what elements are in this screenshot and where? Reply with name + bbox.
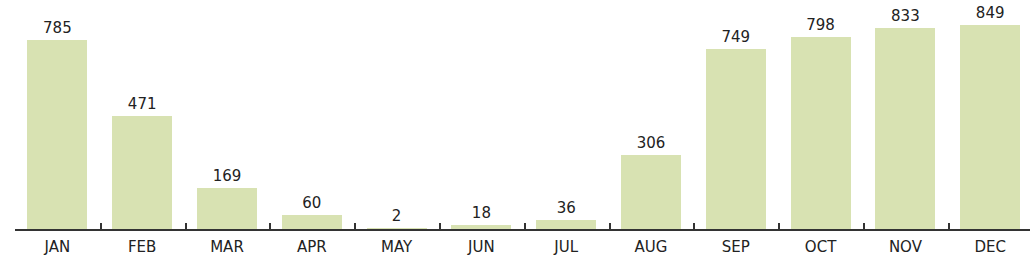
x-axis-tick — [100, 223, 102, 230]
bar-aug — [621, 155, 681, 229]
bar-jun — [451, 225, 511, 229]
bar-mar — [197, 188, 257, 229]
bar-feb — [112, 116, 172, 229]
x-axis-tick — [693, 223, 695, 230]
category-label-aug: AUG — [611, 238, 691, 256]
x-axis-tick — [609, 223, 611, 230]
value-label-dec: 849 — [950, 4, 1030, 22]
bar-jan — [27, 40, 87, 229]
x-axis-line — [15, 229, 1030, 231]
x-axis-tick — [778, 223, 780, 230]
category-label-jul: JUL — [526, 238, 606, 256]
monthly-bar-chart: 785JAN471FEB169MAR60APR2MAY18JUN36JUL306… — [0, 0, 1033, 270]
category-label-feb: FEB — [102, 238, 182, 256]
category-label-mar: MAR — [187, 238, 267, 256]
bar-may — [367, 228, 427, 229]
x-axis-tick — [863, 223, 865, 230]
x-axis-tick — [269, 223, 271, 230]
value-label-jun: 18 — [441, 204, 521, 222]
value-label-nov: 833 — [865, 7, 945, 25]
value-label-apr: 60 — [272, 194, 352, 212]
value-label-oct: 798 — [781, 16, 861, 34]
x-axis-tick — [185, 223, 187, 230]
category-label-sep: SEP — [696, 238, 776, 256]
value-label-jan: 785 — [17, 19, 97, 37]
category-label-jan: JAN — [17, 238, 97, 256]
category-label-jun: JUN — [441, 238, 521, 256]
value-label-feb: 471 — [102, 95, 182, 113]
x-axis-tick — [524, 223, 526, 230]
bar-dec — [960, 25, 1020, 229]
value-label-sep: 749 — [696, 28, 776, 46]
bar-jul — [536, 220, 596, 229]
category-label-oct: OCT — [781, 238, 861, 256]
category-label-dec: DEC — [950, 238, 1030, 256]
x-axis-tick — [948, 223, 950, 230]
bar-apr — [282, 215, 342, 229]
bar-oct — [791, 37, 851, 229]
value-label-mar: 169 — [187, 167, 267, 185]
value-label-aug: 306 — [611, 134, 691, 152]
x-axis-tick — [354, 223, 356, 230]
value-label-may: 2 — [357, 207, 437, 225]
value-label-jul: 36 — [526, 199, 606, 217]
category-label-apr: APR — [272, 238, 352, 256]
bar-nov — [875, 28, 935, 229]
bar-sep — [706, 49, 766, 229]
category-label-nov: NOV — [865, 238, 945, 256]
x-axis-tick — [439, 223, 441, 230]
category-label-may: MAY — [357, 238, 437, 256]
